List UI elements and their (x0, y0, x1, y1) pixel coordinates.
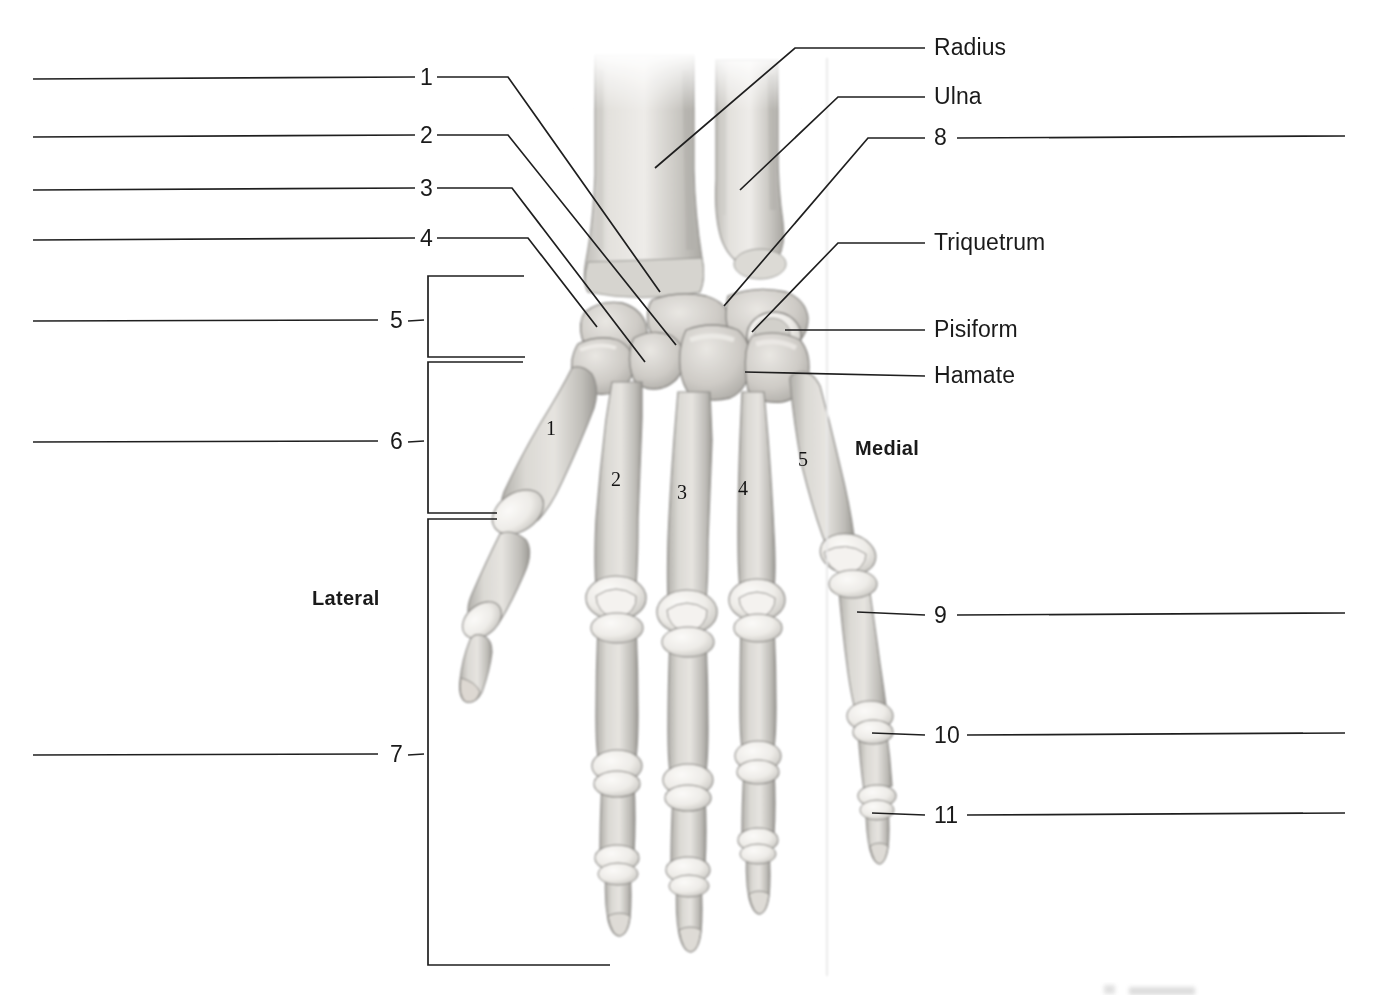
bracket-5-tick (408, 320, 424, 321)
middle-distal-phalanx (669, 875, 709, 952)
callout-label-radius: Radius (934, 36, 1006, 59)
orientation-label-lateral: Lateral (312, 588, 380, 608)
orientation-label-medial: Medial (855, 438, 919, 458)
callout-number-4: 4 (420, 227, 433, 250)
bracket-5 (428, 276, 525, 357)
index-middle-phalanx (594, 771, 640, 871)
callout-label-hamate: Hamate (934, 364, 1015, 387)
metacarpal-3 (657, 392, 717, 634)
middle-middle-phalanx (665, 785, 711, 883)
ring-distal-phalanx (740, 844, 776, 914)
ring-proximal-phalanx (734, 614, 782, 771)
blank-line-3 (33, 188, 415, 190)
bracket-7-tick (408, 754, 424, 755)
blank-line-11 (967, 813, 1345, 815)
blank-line-9 (957, 613, 1345, 615)
ring-middle-phalanx (737, 760, 779, 852)
metacarpal-2 (586, 382, 646, 620)
metacarpal-numeral-1: 1 (546, 418, 556, 438)
pointer-4 (437, 238, 597, 327)
little-distal-phalanx (860, 800, 894, 864)
metacarpal-numeral-4: 4 (738, 478, 748, 498)
blank-line-5 (33, 320, 378, 321)
middle-proximal-phalanx (662, 627, 714, 796)
bracket-6-tick (408, 441, 424, 442)
blank-line-2 (33, 135, 415, 137)
anatomy-figure-page: 1 2 3 4 5 6 7 Radius Ulna 8 Triquetrum P… (0, 0, 1385, 995)
little-proximal-phalanx (829, 570, 893, 731)
callout-number-5: 5 (390, 309, 403, 332)
thumb-distal-phalanx (460, 635, 492, 703)
callout-label-pisiform: Pisiform (934, 318, 1018, 341)
index-proximal-phalanx (591, 613, 643, 782)
metacarpal-1 (484, 367, 596, 544)
hand-skeleton-diagram (0, 0, 1385, 995)
callout-label-ulna: Ulna (934, 85, 982, 108)
index-distal-phalanx (598, 863, 638, 936)
callout-number-6: 6 (390, 430, 403, 453)
metacarpal-numeral-2: 2 (611, 469, 621, 489)
callout-number-9: 9 (934, 604, 947, 627)
metacarpal-numeral-5: 5 (798, 449, 808, 469)
callout-number-8: 8 (934, 126, 947, 149)
scanner-artifacts (1104, 985, 1195, 995)
blank-line-7 (33, 754, 378, 755)
blank-line-6 (33, 441, 378, 442)
metacarpal-5 (790, 372, 880, 580)
blank-line-4 (33, 238, 415, 240)
callout-number-3: 3 (420, 177, 433, 200)
thumb-proximal-phalanx (456, 532, 530, 646)
metacarpal-4 (729, 392, 785, 621)
callout-number-7: 7 (390, 743, 403, 766)
blank-line-1 (33, 77, 415, 79)
callout-label-triquetrum: Triquetrum (934, 231, 1045, 254)
callout-number-11: 11 (934, 804, 958, 827)
callout-number-10: 10 (934, 724, 960, 747)
skeleton-illustration (456, 52, 896, 976)
blank-line-10 (967, 733, 1345, 735)
callout-number-1: 1 (420, 66, 433, 89)
blank-line-8 (957, 136, 1345, 138)
callout-number-2: 2 (420, 124, 433, 147)
metacarpal-numeral-3: 3 (677, 482, 687, 502)
